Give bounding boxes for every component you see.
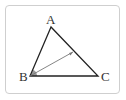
vertex-label-b: B	[19, 69, 28, 84]
segment-b-to-ac	[30, 52, 73, 76]
vertex-label-a: A	[46, 12, 56, 27]
vertex-label-c: C	[101, 69, 110, 84]
triangle-abc	[30, 27, 98, 76]
triangle-diagram: A B C	[0, 0, 126, 100]
arrowhead-icon	[69, 52, 73, 56]
